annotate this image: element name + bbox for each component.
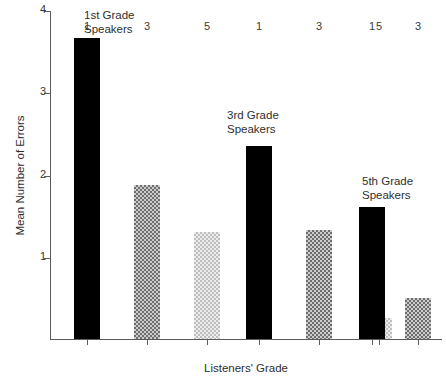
annotation-line-2: Speakers xyxy=(84,22,135,36)
x-tick-label: 1 xyxy=(256,20,262,32)
annotation-line-2: Speakers xyxy=(227,122,279,136)
y-axis-line xyxy=(50,11,51,340)
x-axis-line xyxy=(50,339,442,340)
group-annotation-1st-grade: 1st Grade Speakers xyxy=(84,8,135,36)
y-axis-title: Mean Number of Errors xyxy=(14,11,32,340)
annotation-line-1: 5th Grade xyxy=(362,174,413,188)
bar-g3-c2 xyxy=(405,298,431,339)
bar-g2-c1 xyxy=(246,146,272,339)
y-tick-label: 3 xyxy=(40,85,46,97)
group-annotation-5th-grade: 5th Grade Speakers xyxy=(362,174,413,202)
x-tick-label: 3 xyxy=(144,20,150,32)
bar-g1-c3 xyxy=(194,232,220,339)
y-tick-label: 1 xyxy=(40,250,46,262)
bar-g1-c1 xyxy=(74,38,100,339)
bar-g3-c1 xyxy=(359,207,385,339)
x-tick-label: 5 xyxy=(204,20,210,32)
x-tick-label: 1 xyxy=(369,20,375,32)
annotation-line-2: Speakers xyxy=(362,188,413,202)
y-tick-label: 4 xyxy=(40,3,46,15)
bar-g2-c2 xyxy=(306,230,332,339)
bar-g1-c2 xyxy=(134,185,160,339)
x-tick-label: 3 xyxy=(316,20,322,32)
bar-chart-figure: 4 3 2 1 1 3 xyxy=(0,0,446,380)
x-axis-title: Listeners' Grade xyxy=(50,362,442,374)
annotation-line-1: 3rd Grade xyxy=(227,108,279,122)
x-tick-label: 3 xyxy=(415,20,421,32)
group-annotation-3rd-grade: 3rd Grade Speakers xyxy=(227,108,279,136)
annotation-line-1: 1st Grade xyxy=(84,8,135,22)
x-tick-label: 5 xyxy=(376,20,382,32)
y-tick-label: 2 xyxy=(40,168,46,180)
